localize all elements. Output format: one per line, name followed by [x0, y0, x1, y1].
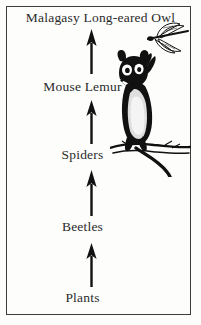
arrow-plants-to-beetles [83, 243, 100, 287]
trophic-label-mouse-lemur: Mouse Lemur [0, 79, 183, 95]
arrow-lemur-to-owl [83, 29, 100, 74]
trophic-label-beetles: Beetles [0, 219, 183, 235]
trophic-label-spiders: Spiders [0, 147, 183, 163]
trophic-label-owl: Malagasy Long-eared Owl [0, 10, 201, 26]
food-chain-figure: Malagasy Long-eared Owl Mouse Lemur Spid… [0, 0, 201, 325]
arrow-spiders-to-lemur [83, 100, 100, 144]
arrow-beetles-to-spiders [83, 170, 100, 216]
trophic-label-plants: Plants [0, 290, 183, 306]
